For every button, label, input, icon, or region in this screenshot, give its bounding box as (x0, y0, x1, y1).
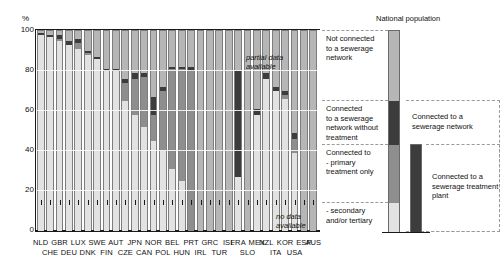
annotation-partial-line2: available (246, 62, 283, 71)
legend-no-treatment-l3: network without (326, 123, 378, 133)
x-label-tur: TUR (206, 248, 232, 257)
legend-not-connected-l1: Not connected (326, 34, 374, 44)
x-tick-nzl (266, 200, 267, 205)
segment-primary (188, 71, 194, 231)
x-tick-che (50, 200, 51, 205)
x-tick-grc (210, 200, 211, 205)
x-tick-prt (191, 200, 192, 205)
y-tick-40: 40 (10, 146, 34, 154)
annotation-partial-line1: partial data (246, 53, 283, 62)
y-tick-60: 60 (10, 106, 34, 114)
y-tick-0: 0 (10, 226, 34, 234)
segment-not-connected (292, 31, 298, 133)
segment-primary (160, 91, 166, 151)
x-tick-gbr (60, 200, 61, 205)
x-tick-lux (78, 200, 79, 205)
segment-secondary (113, 71, 119, 231)
legend: National population Not connected to a s… (322, 14, 500, 264)
x-tick-jpn (135, 200, 136, 205)
legend-label-not-connected: Not connected to a sewerage network (326, 34, 374, 63)
segment-not-connected (94, 31, 100, 57)
x-tick-swe (97, 200, 98, 205)
legend-not-connected-l3: network (326, 53, 374, 63)
gridline-20 (36, 190, 318, 191)
legend-title: National population (376, 14, 440, 23)
x-label-usa: USA (282, 248, 308, 257)
segment-no-treatment (235, 71, 241, 177)
x-tick-pol (163, 200, 164, 205)
x-tick-irl (201, 200, 202, 205)
segment-secondary (94, 59, 100, 231)
legend-label-secondary: - secondary and/or tertiary (326, 206, 372, 225)
y-axis-ticks: 100 80 60 40 20 0 (8, 0, 34, 274)
x-tick-aut (116, 200, 117, 205)
legend-primary-l3: treatment only (326, 167, 374, 177)
segment-primary (179, 69, 185, 181)
x-tick-mex (257, 200, 258, 205)
segment-not-connected (235, 31, 241, 71)
legend-secondary-l2: and/or tertiary (326, 216, 372, 226)
segment-secondary (273, 91, 279, 231)
legend-seg-secondary (389, 203, 399, 233)
legend-label-bracket-plant: Connected to a sewerage treatment plant (432, 172, 498, 201)
segment-secondary (151, 141, 157, 231)
segment-secondary (179, 181, 185, 231)
segment-not-connected (188, 31, 194, 67)
legend-secondary-l1: - secondary (326, 206, 372, 216)
y-tick-100: 100 (10, 26, 34, 34)
legend-divider-2 (322, 100, 388, 101)
legend-no-treatment-l4: treatment (326, 133, 378, 143)
x-tick-fra (238, 200, 239, 205)
segment-not-connected (75, 31, 81, 39)
x-tick-deu (69, 200, 70, 205)
y-tick-20: 20 (10, 186, 34, 194)
segment-secondary (254, 115, 260, 231)
segment-not-connected (160, 31, 166, 87)
segment-primary (141, 77, 147, 127)
x-tick-slo (248, 200, 249, 205)
annotation-partial-data: partial data available (246, 53, 283, 71)
segment-not-connected (169, 31, 175, 67)
legend-label-no-treatment: Connected to a sewerage network without … (326, 104, 378, 142)
segment-not-connected (104, 31, 110, 69)
segment-not-connected (122, 31, 128, 79)
segment-not-connected (141, 31, 147, 73)
legend-primary-l2: - primary (326, 158, 374, 168)
segment-not-connected (113, 31, 119, 69)
legend-baseline (382, 232, 430, 233)
segment-secondary (104, 71, 110, 231)
segment-not-connected (179, 31, 185, 67)
x-tick-can (144, 200, 145, 205)
legend-divider-1 (322, 30, 388, 31)
x-tick-isl (229, 200, 230, 205)
bracket-plant-l1: Connected to a (432, 172, 498, 182)
legend-no-treatment-l2: to a sewerage (326, 114, 378, 124)
x-tick-ita (276, 200, 277, 205)
x-tick-esp (304, 200, 305, 205)
bracket-plant-l3: plant (432, 191, 498, 201)
annotation-nodata-line1: no data (276, 212, 306, 221)
chart-root: % 100 80 60 40 20 0 NLDCHEGBRDEULUXDNKSW… (0, 0, 500, 274)
segment-secondary (122, 101, 128, 231)
annotation-no-data: no data available (276, 212, 306, 230)
bracket-network-l1: Connected to a (412, 112, 473, 122)
legend-seg-not-connected (389, 31, 399, 101)
segment-secondary (132, 115, 138, 231)
x-label-slo: SLO (235, 248, 261, 257)
segment-primary (169, 69, 175, 169)
legend-divider-4 (322, 202, 388, 203)
legend-seg-treatment-dark (411, 145, 421, 233)
legend-primary-l1: Connected to (326, 148, 374, 158)
annotation-nodata-line2: available (276, 221, 306, 230)
bracket-plant-l2: sewerage treatment (432, 182, 498, 192)
x-tick-hun (182, 200, 183, 205)
segment-no-treatment (151, 97, 157, 115)
legend-sample-bar-treatment (410, 144, 422, 232)
legend-sample-bar-national (388, 30, 400, 232)
legend-label-bracket-network: Connected to a sewerage network (412, 112, 473, 131)
x-tick-nld (41, 200, 42, 205)
x-tick-aus (313, 200, 314, 205)
legend-seg-no-treatment (389, 101, 399, 145)
x-tick-cze (125, 200, 126, 205)
x-tick-nor (154, 200, 155, 205)
